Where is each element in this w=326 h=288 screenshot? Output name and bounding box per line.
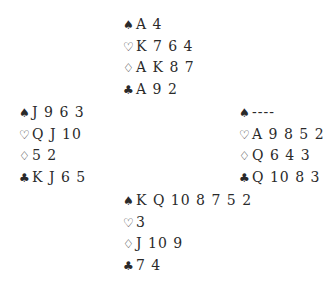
south-diamonds: ♢J 10 9 xyxy=(123,233,252,255)
east-hand: ♠---- ♡A 9 8 5 2 ♢Q 6 4 3 ♣Q 10 8 3 xyxy=(239,102,325,189)
south-hand: ♠K Q 10 8 7 5 2 ♡3 ♢J 10 9 ♣7 4 xyxy=(123,190,252,277)
south-hearts-cards: 3 xyxy=(136,214,146,230)
diamond-icon: ♢ xyxy=(19,146,32,168)
west-clubs-cards: K J 6 5 xyxy=(32,169,86,185)
north-diamonds-cards: A K 8 7 xyxy=(136,59,195,75)
south-clubs-cards: 7 4 xyxy=(136,257,161,273)
south-spades-cards: K Q 10 8 7 5 2 xyxy=(136,192,252,208)
east-hearts: ♡A 9 8 5 2 xyxy=(239,124,325,146)
west-spades-cards: J 9 6 3 xyxy=(32,104,85,120)
west-hand: ♠J 9 6 3 ♡Q J 10 ♢5 2 ♣K J 6 5 xyxy=(19,102,86,189)
east-spades: ♠---- xyxy=(239,102,325,124)
east-clubs-cards: Q 10 8 3 xyxy=(252,169,320,185)
east-diamonds-cards: Q 6 4 3 xyxy=(252,147,311,163)
south-diamonds-cards: J 10 9 xyxy=(136,235,183,251)
heart-icon: ♡ xyxy=(239,125,252,147)
heart-icon: ♡ xyxy=(19,125,32,147)
west-hearts-cards: Q J 10 xyxy=(32,126,82,142)
club-icon: ♣ xyxy=(123,256,136,278)
east-clubs: ♣Q 10 8 3 xyxy=(239,167,325,189)
east-hearts-cards: A 9 8 5 2 xyxy=(252,126,325,142)
west-spades: ♠J 9 6 3 xyxy=(19,102,86,124)
north-clubs-cards: A 9 2 xyxy=(136,81,178,97)
spade-icon: ♠ xyxy=(239,103,252,125)
south-clubs: ♣7 4 xyxy=(123,255,252,277)
spade-icon: ♠ xyxy=(123,15,136,37)
heart-icon: ♡ xyxy=(123,213,136,235)
north-hearts: ♡K 7 6 4 xyxy=(123,36,195,58)
club-icon: ♣ xyxy=(123,80,136,102)
south-spades: ♠K Q 10 8 7 5 2 xyxy=(123,190,252,212)
club-icon: ♣ xyxy=(239,168,252,190)
north-hearts-cards: K 7 6 4 xyxy=(136,38,194,54)
spade-icon: ♠ xyxy=(123,191,136,213)
east-diamonds: ♢Q 6 4 3 xyxy=(239,145,325,167)
north-diamonds: ♢A K 8 7 xyxy=(123,57,195,79)
spade-icon: ♠ xyxy=(19,103,32,125)
west-diamonds-cards: 5 2 xyxy=(32,147,57,163)
north-spades: ♠A 4 xyxy=(123,14,195,36)
heart-icon: ♡ xyxy=(123,37,136,59)
diamond-icon: ♢ xyxy=(239,146,252,168)
diamond-icon: ♢ xyxy=(123,58,136,80)
west-diamonds: ♢5 2 xyxy=(19,145,86,167)
west-hearts: ♡Q J 10 xyxy=(19,124,86,146)
club-icon: ♣ xyxy=(19,168,32,190)
north-spades-cards: A 4 xyxy=(136,16,162,32)
east-spades-cards: ---- xyxy=(252,104,275,120)
north-clubs: ♣A 9 2 xyxy=(123,79,195,101)
diamond-icon: ♢ xyxy=(123,234,136,256)
north-hand: ♠A 4 ♡K 7 6 4 ♢A K 8 7 ♣A 9 2 xyxy=(123,14,195,101)
south-hearts: ♡3 xyxy=(123,212,252,234)
west-clubs: ♣K J 6 5 xyxy=(19,167,86,189)
